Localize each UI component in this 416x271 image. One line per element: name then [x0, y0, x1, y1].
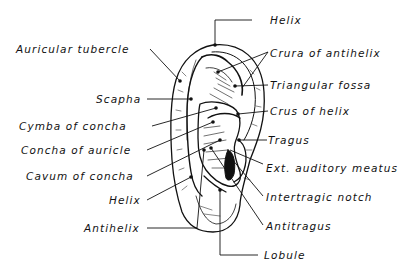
label-intertragic-notch: Intertragic notch — [266, 191, 373, 203]
label-cavum-of-concha: Cavum of concha — [26, 170, 134, 182]
label-ext-auditory-meatus: Ext. auditory meatus — [266, 162, 398, 174]
label-cymba-of-concha: Cymba of concha — [19, 120, 127, 132]
label-crus-of-helix: Crus of helix — [270, 105, 350, 117]
ear-illustration — [0, 0, 416, 271]
label-antihelix: Antihelix — [84, 222, 140, 234]
label-helix-top: Helix — [270, 14, 302, 26]
label-triangular-fossa: Triangular fossa — [270, 79, 371, 91]
label-antitragus: Antitragus — [266, 220, 332, 232]
label-scapha: Scapha — [96, 93, 141, 105]
ear-anatomy-diagram: Auricular tubercle Scapha Cymba of conch… — [0, 0, 416, 271]
label-lobule: Lobule — [264, 249, 306, 261]
label-crura-of-antihelix: Crura of antihelix — [270, 47, 381, 59]
label-concha-of-auricle: Concha of auricle — [21, 144, 131, 156]
label-helix-lower: Helix — [109, 194, 141, 206]
label-tragus: Tragus — [268, 134, 310, 146]
label-auricular-tubercle: Auricular tubercle — [16, 43, 130, 55]
